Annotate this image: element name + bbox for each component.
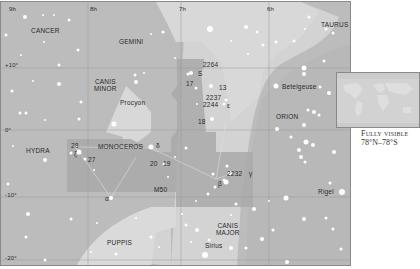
object-beta: β <box>218 180 222 187</box>
star-betelgeuse: Betelgeuse <box>282 83 317 90</box>
visibility-caption-title: Fully visible <box>361 129 408 138</box>
object-27: 27 <box>88 156 96 163</box>
constellation-taurus: TAURUS <box>321 21 348 28</box>
constellation-canis-minor-line2: MINOR <box>94 85 117 92</box>
constellation-canis-major: CANIS MAJOR <box>216 222 240 236</box>
object-2244: 2244 <box>203 101 218 108</box>
visibility-caption: Fully visible 78°N–78°S <box>361 129 408 147</box>
ra-label-9h: 9h <box>9 6 16 13</box>
object-2232: 2232 <box>227 170 242 177</box>
world-map-inset <box>336 72 420 128</box>
constellation-canis-major-line1: CANIS <box>216 222 240 229</box>
object-delta: δ <box>156 142 160 149</box>
dec-label-plus10: +10° <box>5 62 18 69</box>
constellation-puppis: PUPPIS <box>107 239 132 246</box>
ra-label-8h: 8h <box>90 6 97 13</box>
constellation-canis-minor-line1: CANIS <box>94 78 117 85</box>
star-chart-graphics <box>1 2 351 266</box>
visibility-caption-range: 78°N–78°S <box>361 138 408 147</box>
object-28: 28 <box>71 142 79 149</box>
object-alpha: α <box>105 195 109 202</box>
object-2264: 2264 <box>203 61 218 68</box>
object-gamma: γ <box>249 170 252 177</box>
dec-label-minus20: -20° <box>5 255 17 262</box>
star-chart: 9h 8h 7h 6h +10° 0° -10° -20° CANCER GEM… <box>0 1 351 266</box>
object-20: 20 <box>150 160 158 167</box>
constellation-canis-major-line2: MAJOR <box>216 229 240 236</box>
constellation-gemini: GEMINI <box>119 38 143 45</box>
object-m50: M50 <box>154 186 167 193</box>
object-epsilon: ε <box>227 102 230 109</box>
star-procyon: Procyon <box>120 99 145 106</box>
star-sirius: Sirius <box>205 242 222 249</box>
object-18: 18 <box>198 118 206 125</box>
object-s: S <box>198 70 203 77</box>
object-zeta: ζ <box>74 150 77 157</box>
constellation-hydra: HYDRA <box>26 147 50 154</box>
world-map-graphic <box>337 73 420 128</box>
dec-label-0: 0° <box>5 127 11 134</box>
constellation-monoceros: MONOCEROS <box>98 143 143 150</box>
object-19: 19 <box>163 160 171 167</box>
object-13: 13 <box>219 84 227 91</box>
ra-label-6h: 6h <box>267 6 274 13</box>
object-17: 17 <box>186 80 194 87</box>
object-2237: 2237 <box>206 94 221 101</box>
constellation-cancer: CANCER <box>31 27 60 34</box>
ra-label-7h: 7h <box>179 6 186 13</box>
constellation-canis-minor: CANIS MINOR <box>94 78 117 92</box>
dec-label-minus10: -10° <box>5 192 17 199</box>
star-rigel: Rigel <box>318 188 334 195</box>
constellation-orion: ORION <box>276 113 298 120</box>
